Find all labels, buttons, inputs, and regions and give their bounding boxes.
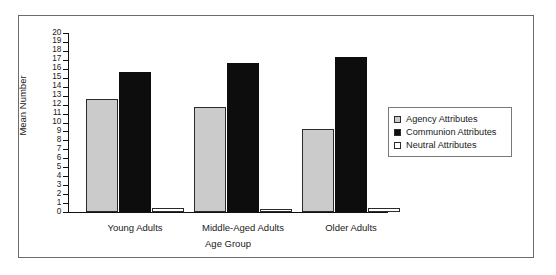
y-tick-10 <box>63 123 68 124</box>
y-tick-label-20: 20 <box>44 29 61 38</box>
y-tick-label-4: 4 <box>44 172 61 181</box>
y-tick-4 <box>63 176 68 177</box>
x-category-label-1: Middle-Aged Adults <box>183 222 303 233</box>
bar-communion-1 <box>227 63 259 212</box>
y-axis-line <box>68 33 69 213</box>
legend-label-communion: Communion Attributes <box>406 127 496 137</box>
y-tick-11 <box>63 114 68 115</box>
y-tick-label-text: 12 <box>44 100 61 108</box>
legend-label-neutral: Neutral Attributes <box>406 140 476 150</box>
y-tick-label-17: 17 <box>44 55 61 64</box>
y-tick-label-text: 7 <box>44 145 61 153</box>
y-tick-label-text: 8 <box>44 136 61 144</box>
y-tick-label-18: 18 <box>44 46 61 55</box>
y-tick-5 <box>63 167 68 168</box>
legend-swatch-agency <box>394 116 401 123</box>
y-tick-8 <box>63 140 68 141</box>
y-tick-13 <box>63 96 68 97</box>
y-tick-3 <box>63 185 68 186</box>
y-tick-15 <box>63 78 68 79</box>
y-tick-label-7: 7 <box>44 145 61 154</box>
x-category-label-2: Older Adults <box>291 222 411 233</box>
y-tick-label-text: 19 <box>44 37 61 45</box>
y-tick-7 <box>63 149 68 150</box>
y-tick-14 <box>63 87 68 88</box>
y-tick-19 <box>63 42 68 43</box>
y-tick-label-text: 17 <box>44 55 61 63</box>
y-tick-9 <box>63 131 68 132</box>
y-tick-label-text: 9 <box>44 127 61 135</box>
y-tick-16 <box>63 69 68 70</box>
y-tick-label-text: 20 <box>44 29 61 37</box>
bar-agency-0 <box>86 99 118 212</box>
legend-item: Communion Attributes <box>394 126 505 138</box>
y-tick-12 <box>63 105 68 106</box>
x-category-label-0: Young Adults <box>75 222 195 233</box>
y-tick-label-text: 5 <box>44 163 61 171</box>
legend-item: Agency Attributes <box>394 113 505 125</box>
legend-item: Neutral Attributes <box>394 139 505 151</box>
y-tick-label-text: 11 <box>44 109 61 117</box>
bar-agency-1 <box>194 107 226 212</box>
y-tick-label-text: 6 <box>44 154 61 162</box>
y-tick-20 <box>63 33 68 34</box>
y-tick-label-text: 2 <box>44 190 61 198</box>
y-tick-1 <box>63 203 68 204</box>
y-tick-label-3: 3 <box>44 181 61 190</box>
bar-neutral-2 <box>368 208 400 212</box>
y-tick-label-10: 10 <box>44 118 61 127</box>
y-tick-label-text: 15 <box>44 73 61 81</box>
bar-neutral-1 <box>260 209 292 212</box>
y-tick-label-text: 18 <box>44 46 61 54</box>
y-tick-label-15: 15 <box>44 73 61 82</box>
bar-agency-2 <box>302 129 334 212</box>
legend-swatch-neutral <box>394 142 401 149</box>
y-tick-label-12: 12 <box>44 100 61 109</box>
bar-communion-0 <box>119 72 151 212</box>
y-tick-label-text: 13 <box>44 91 61 99</box>
y-tick-label-text: 1 <box>44 199 61 207</box>
y-tick-label-11: 11 <box>44 109 61 118</box>
y-tick-label-5: 5 <box>44 163 61 172</box>
legend-label-agency: Agency Attributes <box>406 114 478 124</box>
bar-neutral-0 <box>152 208 184 212</box>
y-tick-label-16: 16 <box>44 64 61 73</box>
y-tick-17 <box>63 60 68 61</box>
x-axis-line <box>68 212 388 213</box>
y-tick-label-0: 0 <box>44 208 61 217</box>
y-tick-2 <box>63 194 68 195</box>
y-tick-label-text: 14 <box>44 82 61 90</box>
legend-swatch-communion <box>394 129 401 136</box>
y-tick-label-6: 6 <box>44 154 61 163</box>
y-tick-label-text: 3 <box>44 181 61 189</box>
y-tick-label-1: 1 <box>44 199 61 208</box>
y-tick-label-14: 14 <box>44 82 61 91</box>
y-tick-label-9: 9 <box>44 127 61 136</box>
bar-communion-2 <box>335 57 367 212</box>
y-tick-label-text: 0 <box>44 208 61 216</box>
y-tick-18 <box>63 51 68 52</box>
y-axis-title: Mean Number <box>17 66 28 146</box>
y-tick-label-2: 2 <box>44 190 61 199</box>
y-tick-label-text: 10 <box>44 118 61 126</box>
y-tick-label-text: 4 <box>44 172 61 180</box>
y-tick-0 <box>63 212 68 213</box>
x-axis-title: Age Group <box>68 238 388 249</box>
y-tick-label-13: 13 <box>44 91 61 100</box>
y-tick-label-19: 19 <box>44 37 61 46</box>
y-tick-label-8: 8 <box>44 136 61 145</box>
y-tick-6 <box>63 158 68 159</box>
chart-legend: Agency Attributes Communion Attributes N… <box>388 107 512 157</box>
y-tick-label-text: 16 <box>44 64 61 72</box>
bar-chart: 01234567891011121314151617181920 Mean Nu… <box>0 0 556 275</box>
